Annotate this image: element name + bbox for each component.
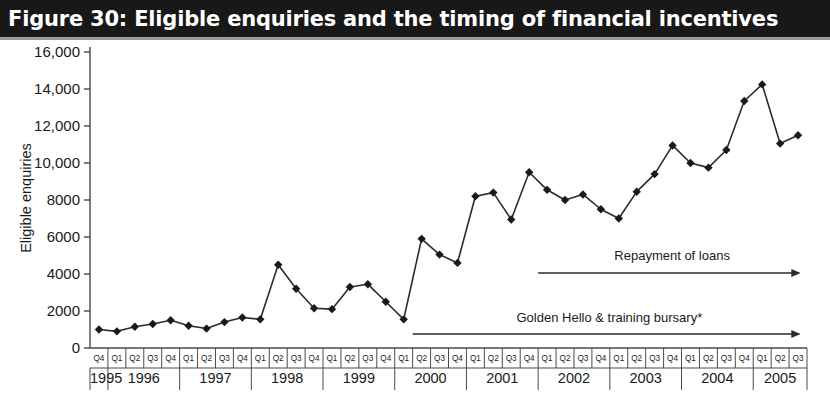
x-axis-quarter-label: Q2 bbox=[771, 354, 789, 363]
annotation-label-golden-hello: Golden Hello & training bursary* bbox=[413, 310, 806, 325]
chart-series-eligible-enquiries bbox=[95, 80, 802, 335]
x-axis-year-label: 2004 bbox=[682, 370, 754, 386]
x-axis-year-label: 1995 bbox=[90, 370, 108, 386]
x-axis-quarter-label: Q3 bbox=[574, 354, 592, 363]
x-axis-quarter-label: Q2 bbox=[341, 354, 359, 363]
x-axis-quarter-label: Q1 bbox=[753, 354, 771, 363]
x-axis-quarter-label: Q1 bbox=[251, 354, 269, 363]
x-axis-quarter-label: Q1 bbox=[395, 354, 413, 363]
x-axis-quarter-label: Q3 bbox=[502, 354, 520, 363]
x-axis-quarter-label: Q4 bbox=[377, 354, 395, 363]
x-axis-quarter-label: Q2 bbox=[556, 354, 574, 363]
x-axis-year-label: 1999 bbox=[323, 370, 395, 386]
x-axis-year-label: 2003 bbox=[610, 370, 682, 386]
x-axis-quarter-label: Q3 bbox=[717, 354, 735, 363]
x-axis-quarter-label: Q4 bbox=[664, 354, 682, 363]
x-axis-quarter-label: Q4 bbox=[162, 354, 180, 363]
x-axis-quarter-label: Q1 bbox=[466, 354, 484, 363]
x-axis-quarter-label: Q4 bbox=[233, 354, 251, 363]
x-axis-quarter-label: Q1 bbox=[323, 354, 341, 363]
x-axis-quarter-label: Q1 bbox=[538, 354, 556, 363]
x-axis-quarter-label: Q3 bbox=[646, 354, 664, 363]
x-axis-quarter-label: Q1 bbox=[180, 354, 198, 363]
chart-figure: Eligible enquiries 16,00014,00012,00010,… bbox=[0, 40, 830, 416]
x-axis-year-label: 2002 bbox=[538, 370, 610, 386]
x-axis-quarter-label: Q3 bbox=[789, 354, 807, 363]
x-axis-quarter-label: Q4 bbox=[305, 354, 323, 363]
x-axis-quarter-label: Q4 bbox=[520, 354, 538, 363]
x-axis-year-label: 2005 bbox=[753, 370, 807, 386]
chart-axes bbox=[84, 47, 807, 390]
x-axis-year-label: 1998 bbox=[251, 370, 323, 386]
x-axis-quarter-label: Q3 bbox=[215, 354, 233, 363]
x-axis-quarter-label: Q2 bbox=[413, 354, 431, 363]
x-axis-quarter-label: Q4 bbox=[592, 354, 610, 363]
x-axis-quarter-label: Q3 bbox=[431, 354, 449, 363]
x-axis-quarter-label: Q4 bbox=[449, 354, 467, 363]
x-axis-quarter-label: Q2 bbox=[269, 354, 287, 363]
x-axis-quarter-label: Q4 bbox=[735, 354, 753, 363]
x-axis-quarter-label: Q2 bbox=[126, 354, 144, 363]
x-axis-quarter-label: Q3 bbox=[287, 354, 305, 363]
figure-title-bar: Figure 30: Eligible enquiries and the ti… bbox=[0, 0, 830, 37]
x-axis-year-label: 1997 bbox=[180, 370, 252, 386]
x-axis-quarter-label: Q1 bbox=[682, 354, 700, 363]
x-axis-quarter-label: Q1 bbox=[610, 354, 628, 363]
x-axis-quarter-label: Q4 bbox=[90, 354, 108, 363]
x-axis-year-label: 1996 bbox=[108, 370, 180, 386]
x-axis-year-label: 2000 bbox=[395, 370, 467, 386]
x-axis-quarter-label: Q2 bbox=[628, 354, 646, 363]
x-axis-quarter-label: Q3 bbox=[359, 354, 377, 363]
x-axis-quarter-label: Q2 bbox=[198, 354, 216, 363]
x-axis-quarter-label: Q1 bbox=[108, 354, 126, 363]
annotation-label-repayment-of-loans: Repayment of loans bbox=[538, 248, 806, 263]
x-axis-year-label: 2001 bbox=[466, 370, 538, 386]
x-axis-quarter-label: Q3 bbox=[144, 354, 162, 363]
x-axis-quarter-label: Q2 bbox=[484, 354, 502, 363]
x-axis-quarter-label: Q2 bbox=[699, 354, 717, 363]
page-title: Figure 30: Eligible enquiries and the ti… bbox=[0, 7, 778, 31]
